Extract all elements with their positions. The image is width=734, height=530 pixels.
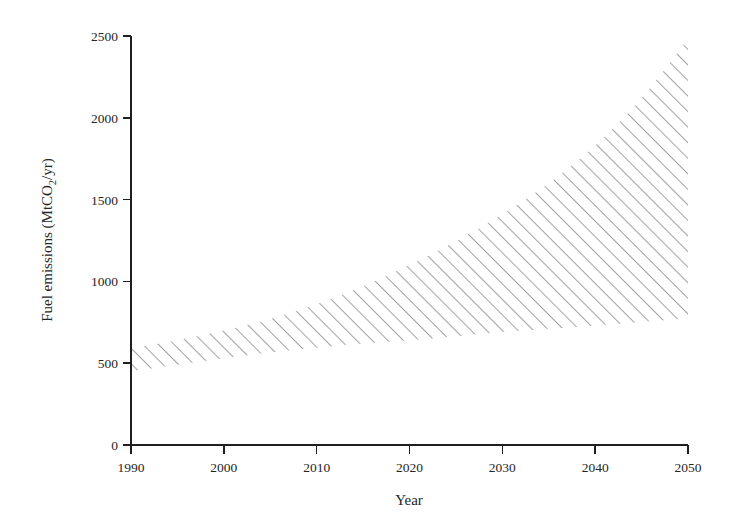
y-axis-title-suffix: /yr) xyxy=(39,158,56,180)
y-axis-ticks: 05001000150020002500 xyxy=(91,29,131,453)
uncertainty-band xyxy=(131,39,688,371)
y-tick-label: 500 xyxy=(98,356,119,371)
svg-text:Fuel emissions (MtCO2/yr): Fuel emissions (MtCO2/yr) xyxy=(39,158,58,322)
x-tick-label: 1990 xyxy=(118,460,145,475)
x-tick-label: 2050 xyxy=(675,460,702,475)
x-tick-label: 2040 xyxy=(582,460,609,475)
x-tick-label: 2030 xyxy=(489,460,516,475)
y-tick-label: 2000 xyxy=(91,111,118,126)
x-tick-label: 2000 xyxy=(210,460,237,475)
fuel-emissions-chart: 05001000150020002500 1990200020102020203… xyxy=(0,0,734,530)
y-tick-label: 0 xyxy=(111,438,118,453)
y-tick-label: 1000 xyxy=(91,274,118,289)
x-tick-label: 2010 xyxy=(303,460,330,475)
chart-container: 05001000150020002500 1990200020102020203… xyxy=(0,0,734,530)
y-tick-label: 1500 xyxy=(91,193,118,208)
x-axis-title: Year xyxy=(395,492,423,508)
y-axis-title: Fuel emissions (MtCO2/yr) xyxy=(39,158,58,322)
x-axis-ticks: 1990200020102020203020402050 xyxy=(118,445,702,475)
y-tick-label: 2500 xyxy=(91,29,118,44)
x-tick-label: 2020 xyxy=(396,460,423,475)
y-axis-title-prefix: Fuel emissions (MtCO xyxy=(39,185,56,322)
